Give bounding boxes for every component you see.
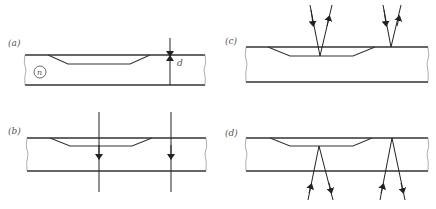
slab-left-break [24, 55, 26, 85]
panel-label-d: (d) [225, 128, 238, 138]
groove [48, 55, 150, 64]
groove [270, 138, 372, 146]
panel-label-c: (c) [225, 36, 238, 46]
slab-left-break [26, 138, 28, 171]
panel-b: (b) [8, 112, 207, 192]
groove [50, 138, 152, 146]
slab-left-break [245, 138, 247, 171]
ray-arrow-out [327, 18, 329, 26]
panel-a: (a) n d [8, 38, 206, 85]
slab-right-break [427, 47, 429, 82]
figure-canvas: (a) n d (b) (c) [0, 0, 436, 209]
slab-right-break [204, 55, 206, 85]
thickness-symbol: d [177, 58, 183, 68]
panel-label-a: (a) [8, 38, 21, 48]
reflected-ray [319, 146, 333, 200]
slab-left-break [245, 47, 247, 82]
panel-d: (d) [225, 128, 429, 200]
slab-right-break [205, 138, 207, 171]
index-symbol: n [37, 68, 42, 77]
panel-label-b: (b) [8, 126, 21, 136]
reflected-ray [320, 5, 332, 56]
panel-c: (c) [225, 5, 429, 82]
slab-right-break [427, 138, 429, 171]
reflected-ray [391, 5, 401, 47]
